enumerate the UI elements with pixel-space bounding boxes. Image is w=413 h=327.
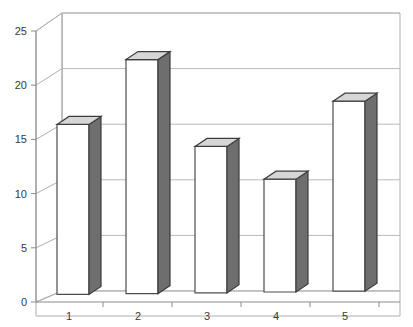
- x-tick-label-5: 5: [342, 310, 348, 322]
- y-tick-label-0: 0: [21, 296, 27, 308]
- bar-4-side: [296, 171, 308, 292]
- bar-2-front: [126, 60, 158, 294]
- bar-2-side: [158, 52, 170, 294]
- bar-2[interactable]: [126, 52, 170, 294]
- bar-1-side: [89, 116, 101, 294]
- chart-canvas: 25 20 15 10 5 0 1 2 3 4 5: [0, 0, 413, 327]
- bar-3-front: [195, 146, 227, 292]
- x-tick-label-4: 4: [273, 310, 279, 322]
- y-tick-marks: [31, 31, 36, 302]
- y-tick-label-20: 20: [15, 79, 27, 91]
- plot-area: [31, 13, 400, 316]
- x-tick-label-1: 1: [66, 310, 72, 322]
- y-tick-label-15: 15: [15, 133, 27, 145]
- bar-3-side: [227, 138, 239, 292]
- bar-1-front: [57, 124, 89, 294]
- bar-1[interactable]: [57, 116, 101, 294]
- y-tick-label-5: 5: [21, 242, 27, 254]
- bar-4[interactable]: [264, 171, 308, 292]
- x-tick-label-3: 3: [204, 310, 210, 322]
- bar-chart-figure: 25 20 15 10 5 0 1 2 3 4 5: [0, 0, 413, 327]
- bar-5-side: [365, 93, 377, 291]
- bar-4-front: [264, 179, 296, 292]
- y-tick-label-10: 10: [15, 188, 27, 200]
- y-tick-label-25: 25: [15, 25, 27, 37]
- bar-5[interactable]: [333, 93, 377, 291]
- x-tick-label-2: 2: [135, 310, 141, 322]
- bar-5-front: [333, 101, 365, 291]
- y-axis-labels: 25 20 15 10 5 0: [15, 25, 27, 308]
- bar-3[interactable]: [195, 138, 239, 292]
